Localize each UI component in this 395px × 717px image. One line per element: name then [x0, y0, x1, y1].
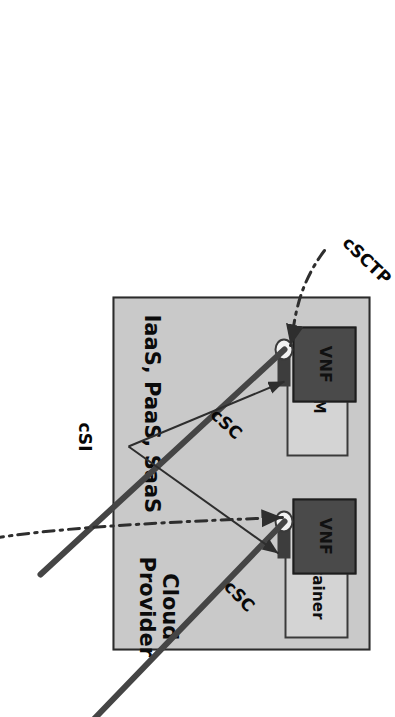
- container-vnf-box: VNF: [292, 498, 356, 574]
- service-models-label: IaaS, PaaS, SaaS: [139, 314, 162, 513]
- csctp-vm-label: cSCTP: [338, 232, 395, 288]
- container-port-ellipse: [274, 510, 293, 532]
- csi-label: cSI: [74, 422, 94, 451]
- vm-vnf-box: VNF: [292, 326, 356, 402]
- vm-port-ellipse: [274, 338, 293, 360]
- vm-vnf-label: VNF: [294, 328, 354, 400]
- cloud-provider-label: Cloud Provider: [135, 556, 180, 657]
- container-vnf-label: VNF: [294, 500, 354, 572]
